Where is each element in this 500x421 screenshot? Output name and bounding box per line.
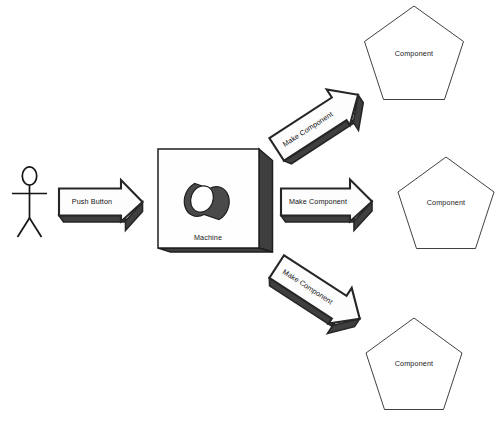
machine-box[interactable]: Machine	[158, 149, 273, 252]
machine-box-right-panel	[259, 149, 273, 252]
component-bottom[interactable]: Component	[366, 318, 462, 410]
component-top-label: Component	[395, 49, 434, 58]
make-component-arrow-middle-label: Make Component	[289, 197, 347, 206]
stick-figure-leg-left	[18, 218, 30, 237]
push-button-arrow[interactable]: Push Button	[59, 180, 143, 231]
make-component-arrow-bottom[interactable]: Make Component	[261, 247, 371, 344]
component-middle[interactable]: Component	[398, 157, 494, 249]
make-component-arrow-top[interactable]: Make Component	[264, 77, 374, 174]
diagram-canvas: Push Button Machine Make Component	[0, 0, 500, 421]
stick-figure-leg-right	[30, 218, 42, 237]
machine-cylinder	[184, 182, 229, 219]
push-button-arrow-label: Push Button	[72, 197, 112, 206]
stick-figure-head	[22, 167, 36, 185]
make-component-arrow-middle[interactable]: Make Component	[281, 180, 372, 231]
stick-figure-actor[interactable]	[12, 167, 47, 237]
component-middle-label: Component	[427, 198, 466, 207]
machine-box-label: Machine	[194, 233, 222, 242]
component-bottom-label: Component	[395, 359, 434, 368]
component-top[interactable]: Component	[365, 6, 464, 100]
